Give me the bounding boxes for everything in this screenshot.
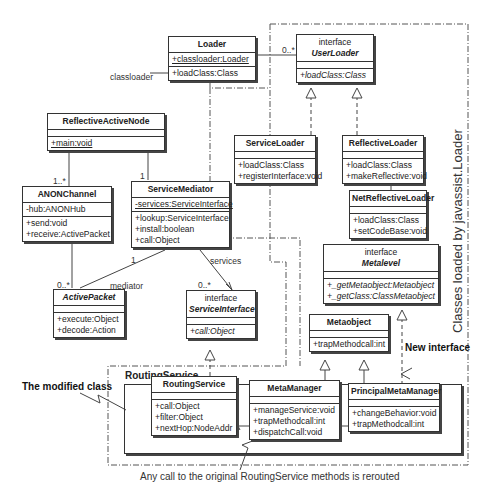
- label-mult-packet: 0..*: [57, 280, 70, 290]
- class-anon-channel[interactable]: ANONChannel -hub:ANONHub +send:void+rece…: [22, 186, 112, 242]
- op: +manageService:void: [253, 405, 336, 416]
- class-name: ServiceMediator: [132, 182, 229, 198]
- label-mult-services: 0..*: [198, 280, 211, 290]
- class-name: ServiceLoader: [235, 136, 315, 152]
- op: +_getClass:ClassMetaobject: [327, 291, 435, 302]
- note-new-interface: New interface: [405, 342, 470, 353]
- class-name: MetaManager: [250, 381, 339, 397]
- note-rerouted: Any call to the original RoutingService …: [140, 471, 400, 482]
- op: +loadClass:Class: [300, 70, 370, 81]
- class-name: RoutingService: [152, 377, 236, 393]
- class-principal-meta-manager[interactable]: PrincipalMetaManager +changeBehavior:voi…: [348, 383, 440, 432]
- interface-service-interface[interactable]: interfaceServiceInterface +call:Object: [186, 290, 256, 339]
- interface-metalevel[interactable]: interfaceMetalevel +_getMetaobject:Metao…: [323, 244, 439, 304]
- class-name: Loader: [169, 37, 255, 53]
- class-name: ActivePacket: [54, 290, 124, 306]
- class-name: ReflectiveActiveNode: [48, 114, 164, 130]
- label-classloader: classloader: [110, 72, 153, 82]
- class-name: UserLoader: [311, 48, 358, 58]
- class-name: ReflectiveLoader: [343, 136, 423, 152]
- op: +call:Object: [135, 235, 226, 246]
- op: +trapMethodcall:int: [352, 419, 436, 430]
- label-mult-mediator-top: 1: [140, 171, 145, 181]
- op: +makeReflective:void: [346, 171, 420, 182]
- class-name: ANONChannel: [23, 187, 111, 203]
- op: +trapMethodcall:int: [313, 339, 385, 350]
- class-name: ServiceInterface: [189, 304, 255, 314]
- label-mult-mediator-packet: 1: [131, 255, 136, 265]
- op: +lookup:ServiceInterface: [135, 213, 226, 224]
- op: +execute:Object: [57, 314, 121, 325]
- op: +filter:Object: [155, 412, 233, 423]
- class-loader[interactable]: Loader +classloader:Loader +loadClass:Cl…: [168, 36, 256, 81]
- op: +decode:Action: [57, 325, 121, 336]
- op: +trapMethodcall:int: [253, 416, 336, 427]
- interface-user-loader[interactable]: interfaceUserLoader +loadClass:Class: [296, 34, 374, 83]
- attr: -hub:ANONHub: [26, 204, 108, 215]
- op: +nextHop:NodeAddr: [155, 423, 233, 434]
- class-net-reflective-loader[interactable]: NetReflectiveLoader +loadClass:Class+set…: [349, 190, 427, 239]
- class-active-packet[interactable]: ActivePacket +execute:Object+decode:Acti…: [53, 289, 125, 338]
- op: +install:boolean: [135, 224, 226, 235]
- op: +main:void: [51, 138, 161, 149]
- op: +loadClass:Class: [346, 160, 420, 171]
- class-name: NetReflectiveLoader: [350, 191, 426, 207]
- op: +send:void: [26, 218, 108, 229]
- attr: -services:ServiceInterface: [135, 199, 226, 210]
- class-service-mediator[interactable]: ServiceMediator -services:ServiceInterfa…: [131, 181, 230, 248]
- op: +loadClass:Class: [353, 215, 423, 226]
- class-meta-manager[interactable]: MetaManager +manageService:void+trapMeth…: [249, 380, 340, 440]
- label-javassist-boundary: Classes loaded by javassist.Loader: [450, 129, 465, 333]
- class-routing-service[interactable]: RoutingService +call:Object+filter:Objec…: [151, 376, 237, 436]
- op: +dispatchCall:void: [253, 427, 336, 438]
- op: +setCodeBase:void: [353, 226, 423, 237]
- op: +call:Object: [155, 401, 233, 412]
- label-mult-anon: 1..*: [53, 176, 66, 186]
- op: +_getMetaobject:Metaobject: [327, 280, 435, 291]
- op: +registerInterface:void: [238, 171, 312, 182]
- label-services: services: [210, 256, 241, 266]
- stereotype: interface: [189, 293, 253, 304]
- attr: +classloader:Loader: [172, 54, 252, 65]
- label-mult-userloader: 0..*: [282, 45, 295, 55]
- op: +loadClass:Class: [238, 160, 312, 171]
- note-modified-class: The modified class: [22, 381, 112, 392]
- class-reflective-active-node[interactable]: ReflectiveActiveNode +main:void: [47, 113, 165, 151]
- stereotype: interface: [299, 37, 371, 48]
- stereotype: interface: [326, 247, 436, 258]
- op: +loadClass:Class: [172, 68, 252, 79]
- op: +call:Object: [190, 326, 252, 337]
- class-name: Metaobject: [310, 315, 388, 331]
- class-name: PrincipalMetaManager: [349, 384, 439, 400]
- class-metaobject[interactable]: Metaobject +trapMethodcall:int: [309, 314, 389, 352]
- class-service-loader[interactable]: ServiceLoader +loadClass:Class+registerI…: [234, 135, 316, 184]
- op: +changeBehavior:void: [352, 408, 436, 419]
- class-reflective-loader[interactable]: ReflectiveLoader +loadClass:Class+makeRe…: [342, 135, 424, 184]
- op: +receive:ActivePacket: [26, 229, 108, 240]
- label-mediator: mediator: [110, 281, 143, 291]
- class-name: Metalevel: [362, 258, 400, 268]
